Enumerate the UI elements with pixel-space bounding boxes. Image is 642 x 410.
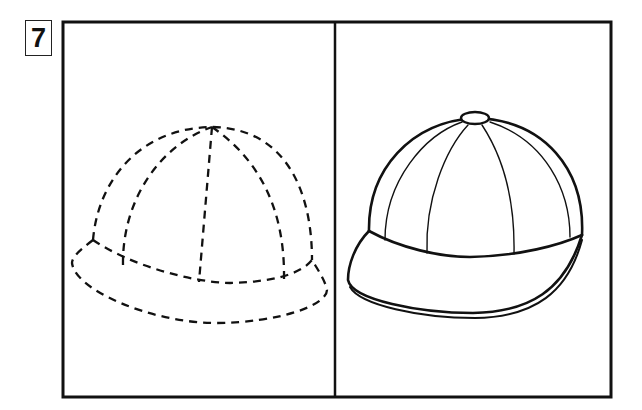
seam-center: [199, 127, 212, 282]
cap-seam-2: [427, 125, 468, 253]
cap-seam-1: [385, 122, 462, 240]
seam-left: [123, 127, 212, 265]
dashed-cap-illustration: [72, 127, 327, 323]
cap-brim: [348, 231, 582, 313]
outer-frame: [63, 22, 611, 397]
seam-right: [212, 127, 284, 279]
cap-band: [369, 231, 582, 257]
cap-seam-3: [482, 125, 514, 254]
cap-seam-4: [490, 122, 570, 237]
cap-button: [461, 112, 489, 124]
worksheet-frame: [0, 0, 642, 410]
solid-cap-illustration: [348, 112, 582, 318]
cap-brim-underside: [350, 240, 582, 318]
